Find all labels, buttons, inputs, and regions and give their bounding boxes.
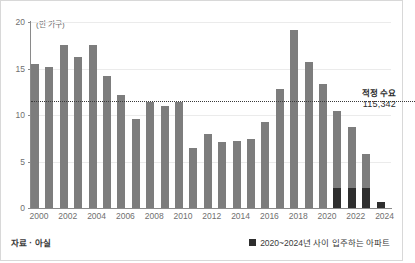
bar-segment-total [319,84,327,208]
chart-legend: 2020~2024년 사이 입주하는 아파트 [249,236,390,248]
bar-2008[interactable] [146,102,154,208]
y-tick-5: 5 [1,158,25,166]
bar-segment-total [117,95,125,208]
x-tick-2016: 2016 [254,211,284,221]
bar-2004[interactable] [89,45,97,208]
bar-segment-total [74,57,82,208]
bar-2020[interactable] [319,84,327,208]
source-note: 자료 · 아실 [11,236,51,248]
x-axis-line [30,208,392,209]
gridline-20 [31,22,391,23]
x-tick-2020: 2020 [312,211,342,221]
y-tick-15: 15 [1,65,25,73]
bar-segment-total [305,62,313,208]
bar-2001[interactable] [45,67,53,208]
y-tick-20: 20 [1,18,25,26]
x-tick-2010: 2010 [168,211,198,221]
y-axis-ticks: 0 5 10 15 20 [1,1,29,208]
bar-segment-total [103,76,111,208]
bar-2024[interactable] [377,202,385,208]
bar-2016[interactable] [261,122,269,208]
x-tick-2004: 2004 [82,211,112,221]
bar-segment-total [146,102,154,208]
demand-value: 115,342 [362,99,396,110]
bar-segment-total [218,142,226,208]
gridline-15 [31,69,391,70]
bar-segment-total [233,141,241,208]
y-tick-0: 0 [1,204,25,212]
x-tick-2024: 2024 [370,211,400,221]
bar-2014[interactable] [233,141,241,208]
reference-line-label: 적정 수요 115,342 [362,88,396,110]
bar-2000[interactable] [31,64,39,208]
x-tick-2002: 2002 [53,211,83,221]
bar-segment-total [247,139,255,208]
x-axis-labels: 2000200220042006200820102012201420162018… [31,211,391,225]
x-tick-2012: 2012 [197,211,227,221]
bar-segment-total [261,122,269,208]
bar-2021[interactable] [333,111,341,208]
bar-2015[interactable] [247,139,255,208]
bar-2003[interactable] [74,57,82,208]
x-tick-2022: 2022 [341,211,371,221]
bar-2019[interactable] [305,62,313,208]
bar-segment-total [89,45,97,208]
bar-2017[interactable] [276,89,284,208]
bar-2007[interactable] [132,119,140,208]
x-tick-2000: 2000 [24,211,54,221]
bar-2013[interactable] [218,142,226,208]
y-tick-mark-0 [28,208,31,209]
demand-title: 적정 수요 [362,88,396,99]
x-tick-2014: 2014 [226,211,256,221]
reference-line-demand [31,101,415,102]
x-tick-2018: 2018 [283,211,313,221]
bar-segment-total [31,64,39,208]
chart-figure: (만 가구) 0 5 10 15 20 적정 수요 115,342 200020… [0,0,403,261]
bar-2011[interactable] [189,148,197,208]
bar-2002[interactable] [60,45,68,208]
bar-segment-total [276,89,284,208]
y-tick-10: 10 [1,111,25,119]
bar-segment-total [45,67,53,208]
bar-segment-total [175,102,183,208]
bar-2022[interactable] [348,127,356,208]
bar-segment-new-apartments [348,188,356,208]
legend-swatch-icon [249,239,256,246]
bar-2018[interactable] [290,30,298,208]
bar-segment-new-apartments [333,188,341,208]
x-tick-2006: 2006 [110,211,140,221]
bar-segment-total [204,134,212,208]
bar-segment-total [60,45,68,208]
bar-segment-new-apartments [362,188,370,208]
bar-2023[interactable] [362,154,370,208]
bar-segment-total [189,148,197,208]
bar-2010[interactable] [175,102,183,208]
bar-segment-total [290,30,298,208]
bar-segment-new-apartments [377,202,385,208]
bar-2005[interactable] [103,76,111,208]
bar-segment-total [132,119,140,208]
legend-label: 2020~2024년 사이 입주하는 아파트 [260,236,390,248]
plot-area [31,22,391,208]
x-tick-2008: 2008 [139,211,169,221]
bar-2012[interactable] [204,134,212,208]
bar-segment-total [161,106,169,208]
bar-2006[interactable] [117,95,125,208]
bar-2009[interactable] [161,106,169,208]
